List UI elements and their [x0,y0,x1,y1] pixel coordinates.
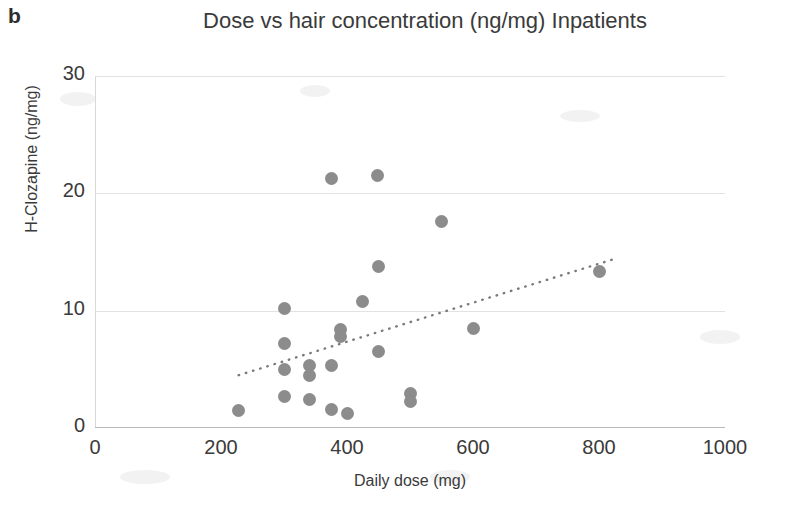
figure-container: b Dose vs hair concentration (ng/mg) Inp… [0,0,793,508]
panel-label: b [8,4,21,28]
data-point [278,302,291,315]
x-tick-label: 1000 [685,436,765,459]
x-axis-title: Daily dose (mg) [95,472,725,490]
gridline [95,76,725,77]
data-point [371,169,384,182]
data-point [372,260,385,273]
x-axis-line [95,427,725,428]
data-point [356,295,369,308]
data-point [593,265,606,278]
data-point [334,330,347,343]
trendline [95,76,725,428]
data-point [325,359,338,372]
x-tick-label: 600 [433,436,513,459]
data-point [325,403,338,416]
gridline [95,311,725,312]
gridline [95,193,725,194]
data-point [303,393,316,406]
x-tick-label: 400 [307,436,387,459]
y-tick-label: 10 [25,297,85,320]
data-point [278,390,291,403]
x-tick-label: 800 [559,436,639,459]
data-point [404,395,417,408]
y-tick-label: 0 [25,414,85,437]
y-tick-label: 30 [25,62,85,85]
data-point [372,345,385,358]
data-point [278,337,291,350]
y-axis-line [95,76,96,428]
data-point [325,172,338,185]
x-tick-label: 0 [55,436,135,459]
data-point [232,404,245,417]
data-point [435,215,448,228]
x-tick-label: 200 [181,436,261,459]
data-point [467,322,480,335]
y-tick-label: 20 [25,179,85,202]
chart-title: Dose vs hair concentration (ng/mg) Inpat… [95,8,755,34]
data-point [341,407,354,420]
data-point [303,369,316,382]
data-point [278,363,291,376]
plot-area [95,76,725,428]
scan-artifact [60,92,96,106]
